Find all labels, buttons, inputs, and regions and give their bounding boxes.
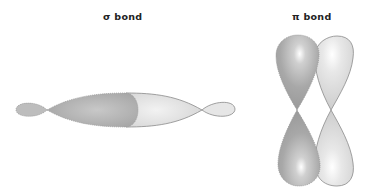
- pi-right-lower-lobe: [315, 110, 354, 186]
- pi-left-lower-lobe: [278, 110, 320, 186]
- sigma-right-minor-lobe: [202, 102, 235, 116]
- pi-bond-orbitals: [276, 35, 353, 186]
- pi-right-upper-lobe: [315, 36, 354, 110]
- sigma-dark-major-lobe: [47, 93, 138, 127]
- sigma-bond-orbitals: [16, 93, 235, 127]
- sigma-left-minor-lobe: [16, 103, 47, 116]
- pi-left-upper-lobe: [276, 35, 319, 110]
- bonding-diagram: [0, 0, 371, 193]
